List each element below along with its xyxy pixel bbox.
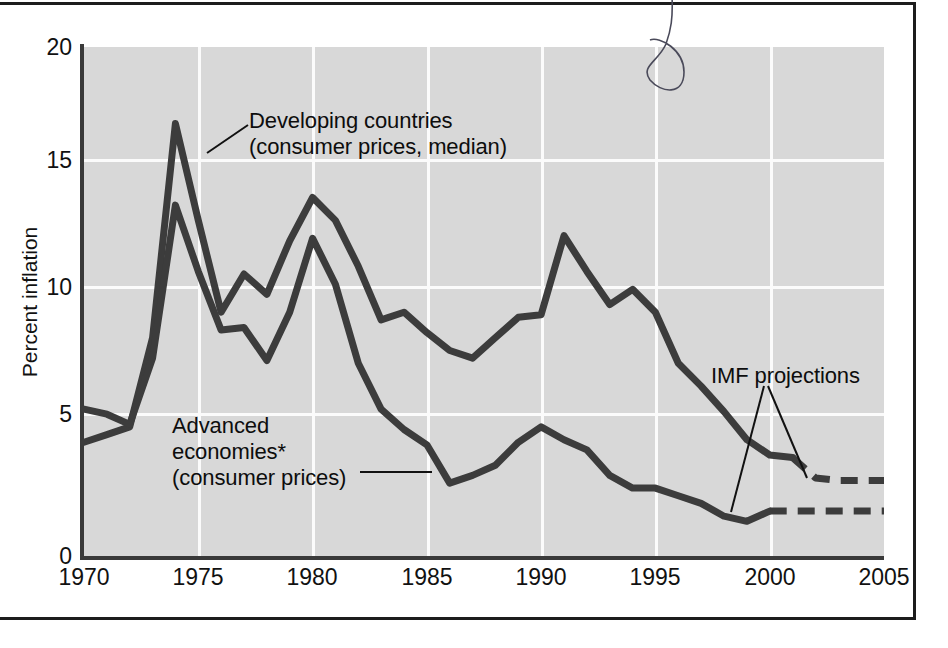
- x-tick-1970: 1970: [29, 566, 139, 589]
- x-tick-2005: 2005: [829, 566, 939, 589]
- gridline-x-2000: [770, 47, 773, 557]
- x-tick-2000: 2000: [715, 566, 825, 589]
- x-tick-1975: 1975: [143, 566, 253, 589]
- gridline-x-1990: [541, 47, 544, 557]
- y-tick-20: 20: [46, 36, 72, 59]
- x-tick-1985: 1985: [372, 566, 482, 589]
- page-border-bottom: [0, 617, 916, 620]
- y-axis-line: [80, 44, 84, 560]
- x-tick-1980: 1980: [257, 566, 367, 589]
- y-tick-15: 15: [46, 149, 72, 172]
- annotation-developing-countries: Developing countries (consumer prices, m…: [249, 108, 507, 160]
- y-tick-5: 5: [59, 403, 72, 426]
- gridline-x-1995: [655, 47, 658, 557]
- x-tick-1995: 1995: [600, 566, 710, 589]
- x-tick-1990: 1990: [486, 566, 596, 589]
- annotation-imf-projections: IMF projections: [711, 363, 860, 389]
- page-border-top: [0, 2, 916, 5]
- x-axis-line: [80, 556, 884, 560]
- figure-root: 20 15 10 5 0 1970 1975 1980 1985 1990 19…: [0, 0, 948, 648]
- page-border-right: [913, 2, 916, 620]
- gridline-y-10: [84, 286, 884, 289]
- y-axis-label: Percent inflation: [18, 202, 42, 402]
- y-tick-10: 10: [46, 276, 72, 299]
- annotation-advanced-economies: Advanced economies* (consumer prices): [172, 413, 346, 491]
